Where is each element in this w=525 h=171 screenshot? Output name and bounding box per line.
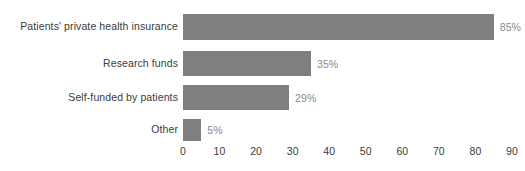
bar[interactable] (183, 119, 201, 141)
x-tick-label: 70 (433, 145, 445, 157)
x-tick-label: 30 (287, 145, 299, 157)
x-tick-label: 80 (469, 145, 481, 157)
bar-value-label: 35% (317, 58, 338, 70)
bar-chart: Patients' private health insurance Resea… (0, 0, 525, 171)
bar-value-label: 5% (207, 124, 222, 136)
bar-value-label: 29% (295, 92, 316, 104)
x-tick-label: 0 (180, 145, 186, 157)
plot-area: 85% 35% 29% 5% (183, 0, 525, 142)
bar-value-label: 85% (500, 21, 521, 33)
x-axis: 0 10 20 30 40 50 60 70 80 90 (183, 145, 525, 165)
x-tick-label: 60 (396, 145, 408, 157)
x-tick-label: 10 (214, 145, 226, 157)
bar[interactable] (183, 51, 311, 76)
x-tick-label: 20 (250, 145, 262, 157)
x-tick-label: 90 (506, 145, 518, 157)
category-label-3: Other (0, 124, 178, 135)
category-label-2: Self-funded by patients (0, 92, 178, 103)
bar[interactable] (183, 85, 289, 110)
category-axis: Patients' private health insurance Resea… (0, 0, 178, 142)
category-label-0: Patients' private health insurance (0, 21, 178, 32)
x-tick-label: 50 (360, 145, 372, 157)
bar[interactable] (183, 14, 494, 40)
x-tick-label: 40 (323, 145, 335, 157)
category-label-1: Research funds (0, 58, 178, 69)
